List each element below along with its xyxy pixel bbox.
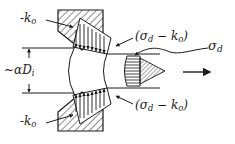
label-draw-stress: σd [208, 39, 223, 54]
exit-stress-distribution [125, 56, 166, 86]
label-contact-stress-bottom: (σd − ko) [135, 99, 188, 112]
label-contact-stress-top: (σd − ko) [135, 30, 188, 43]
label-diameter: ~αDi [4, 64, 34, 77]
label-die-pressure-top: -ko [20, 12, 36, 25]
die-stress-diagram: -ko -ko (σd − ko) (σd − ko) σd ~αDi [0, 0, 235, 144]
label-die-pressure-bottom: -ko [20, 115, 36, 128]
